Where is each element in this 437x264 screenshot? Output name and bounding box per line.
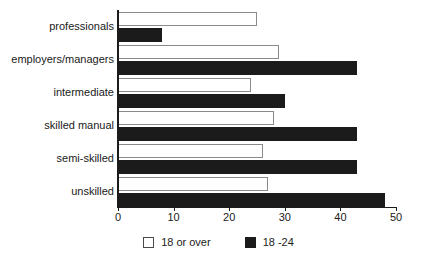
y-axis-label-intermediate: intermediate bbox=[2, 86, 114, 98]
chart-legend: 18 or over 18 -24 bbox=[0, 236, 437, 248]
x-axis-line bbox=[117, 207, 397, 208]
bar-18-24-intermediate bbox=[118, 94, 285, 108]
legend-label-18-24: 18 -24 bbox=[263, 236, 294, 248]
bar-18-24-employers-managers bbox=[118, 61, 357, 75]
bar-18-24-semi-skilled bbox=[118, 160, 357, 174]
bar-group-semi-skilled bbox=[118, 142, 396, 175]
bar-18-or-over-semi-skilled bbox=[118, 144, 263, 158]
plot-area bbox=[118, 10, 396, 208]
y-axis-line bbox=[117, 10, 119, 208]
y-axis-category-labels: professionals employers/managers interme… bbox=[0, 10, 114, 208]
x-tick-label-40: 40 bbox=[334, 211, 346, 223]
x-tick-label-50: 50 bbox=[390, 211, 402, 223]
bar-18-24-professionals bbox=[118, 28, 162, 42]
legend-swatch-black-square-icon bbox=[245, 237, 256, 248]
bar-18-or-over-employers-managers bbox=[118, 45, 279, 59]
x-tick-label-30: 30 bbox=[279, 211, 291, 223]
x-tick-label-10: 10 bbox=[167, 211, 179, 223]
bar-chart: professionals employers/managers interme… bbox=[0, 0, 437, 264]
y-axis-label-employers-managers: employers/managers bbox=[2, 53, 114, 65]
y-axis-label-skilled-manual: skilled manual bbox=[2, 119, 114, 131]
bar-group-employers-managers bbox=[118, 43, 396, 76]
bar-18-or-over-skilled-manual bbox=[118, 111, 274, 125]
y-axis-label-unskilled: unskilled bbox=[2, 185, 114, 197]
legend-label-18-or-over: 18 or over bbox=[161, 236, 211, 248]
bar-18-or-over-professionals bbox=[118, 12, 257, 26]
legend-item-18-24: 18 -24 bbox=[245, 236, 294, 248]
bar-18-or-over-unskilled bbox=[118, 177, 268, 191]
bar-group-professionals bbox=[118, 10, 396, 43]
y-axis-label-semi-skilled: semi-skilled bbox=[2, 152, 114, 164]
bar-group-unskilled bbox=[118, 175, 396, 208]
x-tick-label-20: 20 bbox=[223, 211, 235, 223]
bar-group-intermediate bbox=[118, 76, 396, 109]
bar-18-24-skilled-manual bbox=[118, 127, 357, 141]
y-axis-label-professionals: professionals bbox=[2, 20, 114, 32]
legend-item-18-or-over: 18 or over bbox=[143, 236, 211, 248]
x-tick-label-0: 0 bbox=[115, 211, 121, 223]
bar-18-or-over-intermediate bbox=[118, 78, 251, 92]
legend-swatch-white-square-outline-icon bbox=[143, 237, 154, 248]
bar-18-24-unskilled bbox=[118, 193, 385, 207]
bar-group-skilled-manual bbox=[118, 109, 396, 142]
